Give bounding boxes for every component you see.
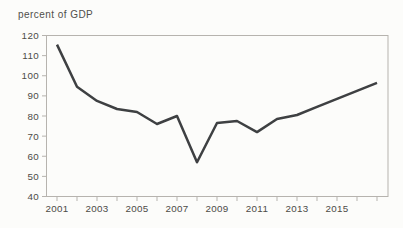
x-tick-label: 2005 <box>125 203 148 214</box>
y-tick-label: 90 <box>27 90 39 101</box>
x-tick-label: 2003 <box>85 203 108 214</box>
y-tick-label: 100 <box>22 70 40 81</box>
x-tick-label: 2013 <box>285 203 308 214</box>
y-tick-label: 80 <box>27 111 39 122</box>
chart-figure: percent of GDP 4050607080901001101202001… <box>0 0 403 228</box>
y-axis: 405060708090100110120 <box>22 30 47 202</box>
x-tick-label: 2011 <box>246 203 268 214</box>
y-tick-label: 70 <box>27 131 39 142</box>
x-tick-label: 2007 <box>165 203 188 214</box>
y-tick-label: 60 <box>27 151 39 162</box>
x-tick-label: 2009 <box>205 203 228 214</box>
y-tick-label: 50 <box>27 171 39 182</box>
y-tick-label: 40 <box>27 191 39 202</box>
data-line-series <box>57 45 377 163</box>
x-tick-label: 2015 <box>325 203 348 214</box>
plot-border <box>47 36 389 197</box>
line-chart-canvas: 4050607080901001101202001200320052007200… <box>0 0 403 228</box>
x-axis: 20012003200520072009201120132015 <box>45 197 377 215</box>
y-tick-label: 120 <box>22 30 40 41</box>
y-tick-label: 110 <box>22 50 39 61</box>
x-tick-label: 2001 <box>45 203 68 214</box>
